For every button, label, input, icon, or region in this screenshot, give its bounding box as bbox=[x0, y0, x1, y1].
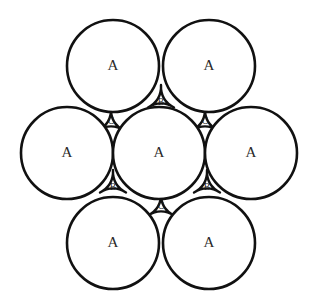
circle-middle-left-label: A bbox=[62, 144, 73, 160]
circle-center-label: A bbox=[154, 144, 165, 160]
circle-top-right: A bbox=[163, 20, 255, 112]
circle-top-right-label: A bbox=[204, 57, 215, 73]
circle-top-left-label: A bbox=[108, 57, 119, 73]
interstice-lower-left-label: B bbox=[110, 182, 116, 192]
circle-top-left: A bbox=[67, 20, 159, 112]
circle-middle-left: A bbox=[21, 107, 113, 199]
packing-diagram: AAAAAAA BCCBBC bbox=[0, 0, 317, 303]
interstice-upper-left-label: C bbox=[108, 116, 114, 126]
circle-center: A bbox=[113, 107, 205, 199]
circle-bottom-right-label: A bbox=[204, 234, 215, 250]
interstice-lower-right-label: B bbox=[204, 182, 210, 192]
circle-middle-right: A bbox=[205, 107, 297, 199]
interstice-upper-right-label: C bbox=[202, 116, 208, 126]
circle-middle-right-label: A bbox=[246, 144, 257, 160]
circle-bottom-left-label: A bbox=[108, 234, 119, 250]
interstice-bottom-center-label: C bbox=[158, 201, 164, 211]
circle-bottom-right: A bbox=[163, 197, 255, 289]
circle-bottom-left: A bbox=[67, 197, 159, 289]
packing-canvas: AAAAAAA BCCBBC bbox=[0, 0, 317, 303]
interstice-top-center-label: B bbox=[158, 97, 164, 107]
